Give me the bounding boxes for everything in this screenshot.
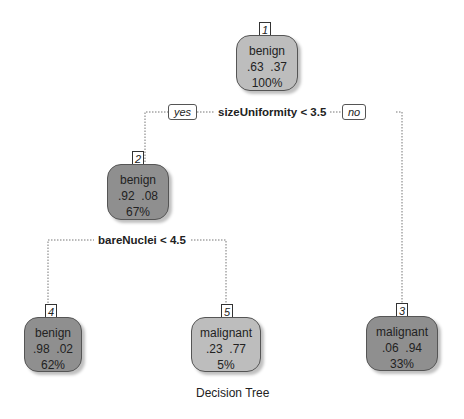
- node-probabilities: .23 .77: [192, 341, 260, 357]
- node-percent: 67%: [108, 204, 168, 220]
- tree-node-5[interactable]: malignant .23 .77 5%: [191, 317, 261, 372]
- node-probabilities: .06 .94: [367, 340, 437, 356]
- split-label-root: sizeUniformity < 3.5: [214, 105, 330, 119]
- yes-label: yes: [168, 104, 197, 120]
- node-class: benign: [25, 325, 81, 341]
- node-percent: 33%: [367, 356, 437, 372]
- node-probabilities: .63 .37: [237, 59, 297, 75]
- node-number-5: 5: [221, 304, 233, 318]
- node-probabilities: .92 .08: [108, 188, 168, 204]
- tree-node-2[interactable]: benign .92 .08 67%: [107, 164, 169, 220]
- node-percent: 100%: [237, 75, 297, 91]
- tree-node-3[interactable]: malignant .06 .94 33%: [366, 316, 438, 371]
- node-class: malignant: [367, 324, 437, 340]
- node-percent: 5%: [192, 357, 260, 373]
- tree-node-1[interactable]: benign .63 .37 100%: [236, 35, 298, 91]
- node-class: benign: [108, 172, 168, 188]
- node-number-3: 3: [396, 303, 408, 317]
- chart-title: Decision Tree: [196, 386, 269, 400]
- node-number-2: 2: [132, 151, 144, 165]
- tree-node-4[interactable]: benign .98 .02 62%: [24, 317, 82, 372]
- no-label: no: [342, 104, 366, 120]
- node-class: benign: [237, 43, 297, 59]
- node-number-4: 4: [45, 304, 57, 318]
- node-probabilities: .98 .02: [25, 341, 81, 357]
- node-number-1: 1: [259, 22, 271, 36]
- split-label-node2: bareNuclei < 4.5: [94, 233, 190, 247]
- node-percent: 62%: [25, 357, 81, 373]
- node-class: malignant: [192, 325, 260, 341]
